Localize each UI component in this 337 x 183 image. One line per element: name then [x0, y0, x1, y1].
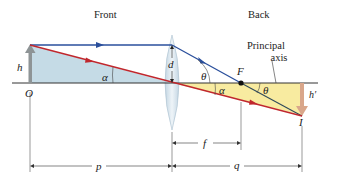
label-I: I [298, 116, 304, 128]
label-p: p [95, 160, 102, 172]
arrow-head-icon [96, 42, 104, 48]
label-q: q [234, 159, 240, 171]
label-O: O [25, 87, 33, 99]
heading-back: Back [248, 9, 270, 20]
focal-point-dot [238, 80, 243, 85]
label-alpha-image: α [219, 84, 225, 96]
heading-front: Front [94, 9, 117, 20]
principal-axis-leader [272, 61, 276, 83]
refracted-ray [172, 45, 241, 83]
label-h-prime: h′ [309, 89, 317, 100]
label-axis: axis [271, 52, 288, 63]
label-F: F [236, 65, 244, 77]
label-principal: Principal [247, 40, 285, 51]
label-theta-lens: θ [201, 70, 207, 82]
label-h: h [17, 61, 23, 73]
label-theta-focus: θ [263, 84, 269, 96]
label-alpha-object: α [102, 71, 108, 83]
label-f: f [203, 137, 208, 149]
label-d: d [168, 58, 174, 70]
thin-lens-diagram: Front Back h O α d θ F α θ Principal axi… [0, 0, 337, 183]
